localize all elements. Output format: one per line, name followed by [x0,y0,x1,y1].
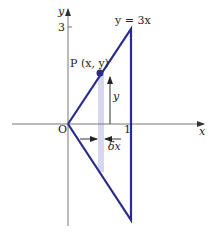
y-axis-label: y [57,5,65,18]
point-label: P (x, y) [70,57,109,70]
point-p [97,70,104,77]
x-axis-label: x [199,125,206,138]
origin-label: O [58,123,67,136]
delta-x-label: δx [108,140,122,153]
height-label: y [112,90,120,103]
x-tick-label: 1 [124,123,131,136]
curve-label: y = 3x [114,14,151,27]
y-tick-label: 3 [58,21,65,34]
diagram-canvas: y 3 y = 3x P (x, y) y O 1 x δx [0,0,217,233]
element-strip [98,74,104,172]
